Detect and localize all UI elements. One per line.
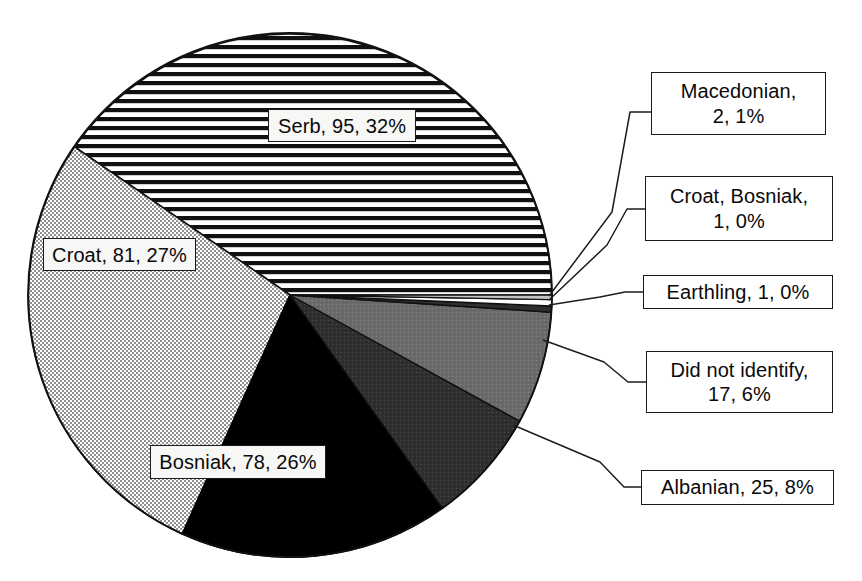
leader-line-croat-bosniak: [549, 209, 645, 300]
callout-croat-bosniak: Croat, Bosniak, 1, 0%: [645, 176, 833, 241]
slice-label-serb-text: Serb, 95, 32%: [278, 114, 406, 138]
slice-label-croat-text: Croat, 81, 27%: [52, 243, 187, 267]
callout-earthling: Earthling, 1, 0%: [643, 275, 833, 309]
callout-did-not-identify: Did not identify, 17, 6%: [646, 351, 833, 413]
slice-label-croat: Croat, 81, 27%: [43, 238, 196, 271]
slice-label-serb: Serb, 95, 32%: [268, 109, 416, 142]
leader-line-earthling: [549, 292, 643, 305]
leader-line-did-not-identify: [543, 340, 646, 382]
leader-line-albanian: [513, 425, 641, 487]
pie-chart-figure: Serb, 95, 32% Croat, 81, 27% Bosniak, 78…: [0, 0, 862, 581]
slice-label-bosniak-text: Bosniak, 78, 26%: [159, 450, 316, 474]
callout-albanian: Albanian, 25, 8%: [641, 470, 834, 505]
slice-label-bosniak: Bosniak, 78, 26%: [150, 445, 326, 479]
callout-macedonian: Macedonian, 2, 1%: [651, 72, 826, 135]
leader-line-macedonian: [549, 112, 651, 296]
